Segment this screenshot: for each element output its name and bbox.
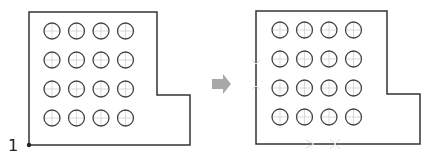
- right-panel: [252, 11, 420, 149]
- origin-point: [27, 143, 31, 147]
- left-panel: 1: [8, 12, 190, 155]
- left-hole-grid: [44, 23, 134, 126]
- right-hole-grid: [272, 22, 362, 125]
- diagram-canvas: 1: [0, 0, 433, 159]
- transform-arrow: [212, 74, 231, 94]
- right-outline: [256, 11, 420, 144]
- origin-label: 1: [8, 136, 18, 155]
